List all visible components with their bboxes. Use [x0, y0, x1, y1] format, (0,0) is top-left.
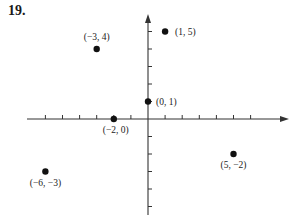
- coordinate-plane: (1, 5)(−3, 4)(0, 1)(−2, 0)(−6, −3)(5, −2…: [0, 0, 302, 219]
- data-point: [145, 98, 151, 104]
- data-point: [111, 116, 117, 122]
- point-label: (0, 1): [156, 97, 177, 108]
- point-label: (1, 5): [175, 27, 196, 38]
- x-axis-arrow-icon: [280, 116, 289, 122]
- point-label: (−2, 0): [103, 125, 129, 136]
- data-point: [94, 46, 100, 52]
- data-point: [230, 151, 236, 157]
- point-label: (5, −2): [221, 160, 247, 171]
- y-axis-arrow-icon: [145, 14, 151, 23]
- data-point: [42, 168, 48, 174]
- point-label: (−6, −3): [30, 178, 61, 189]
- data-point: [162, 28, 168, 34]
- point-label: (−3, 4): [84, 32, 110, 43]
